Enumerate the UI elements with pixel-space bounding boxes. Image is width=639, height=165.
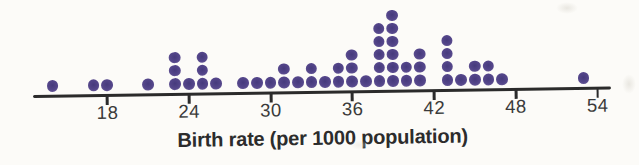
data-dot [360,75,372,87]
x-axis-tick-label: 30 [260,99,282,121]
data-dot [469,60,481,72]
x-axis-tick-label: 42 [423,97,445,119]
data-dot [386,22,398,34]
data-dot [169,52,181,64]
data-dot [387,49,399,61]
data-dot [305,63,317,75]
dot-plot: 18243036424854 Birth rate (per 1000 popu… [0,0,639,165]
data-dot [414,61,426,73]
tick-labels-layer: 18243036424854 [0,0,638,1]
data-dot [319,76,331,88]
data-dot [278,63,290,75]
data-dot [441,35,453,47]
data-dot [88,79,100,91]
data-dot [142,78,154,90]
data-dot [183,78,195,90]
data-dot [101,79,113,91]
data-dot [387,35,399,47]
data-dot [373,49,385,61]
x-axis-title: Birth rate (per 1000 population) [177,125,468,152]
data-dot [455,74,467,86]
data-dot [346,49,358,61]
data-dot [414,48,426,60]
x-axis-tick-label: 54 [587,94,609,116]
x-axis-tick-label: 18 [97,102,119,124]
data-dot [251,77,263,89]
data-dot [441,61,453,73]
data-dot [169,78,181,90]
data-dot [237,77,249,89]
x-axis-tick-label: 24 [178,101,200,123]
data-dot [482,60,494,72]
data-dot [346,75,358,87]
data-dot [210,77,222,89]
data-dot [47,80,59,92]
data-dot [292,76,304,88]
data-dot [305,76,317,88]
data-dot [414,74,426,86]
data-dot [169,65,181,77]
data-dot [373,23,385,35]
data-dot [387,75,399,87]
scan-artifact [622,74,636,94]
x-axis-tick-label: 48 [505,96,527,118]
data-dot [373,62,385,74]
data-dot [482,73,494,85]
x-axis-tick-label: 36 [342,98,364,120]
data-dot [386,9,398,21]
data-dot [469,74,481,86]
data-dot [401,75,413,87]
plot-tilt-wrapper: 18243036424854 Birth rate (per 1000 popu… [0,0,639,165]
dots-layer [0,0,638,1]
data-dot [373,36,385,48]
data-dot [346,62,358,74]
data-dot [333,63,345,75]
scan-artifact [556,2,578,14]
data-dot [196,51,208,63]
data-dot [578,72,590,84]
data-dot [387,62,399,74]
ticks-layer [0,0,638,1]
data-dot [441,48,453,60]
data-dot [401,61,413,73]
data-dot [197,78,209,90]
data-dot [496,73,508,85]
data-dot [196,65,208,77]
data-dot [333,76,345,88]
data-dot [278,76,290,88]
data-dot [265,77,277,89]
data-dot [374,75,386,87]
scan-artifact [350,140,368,150]
data-dot [442,74,454,86]
